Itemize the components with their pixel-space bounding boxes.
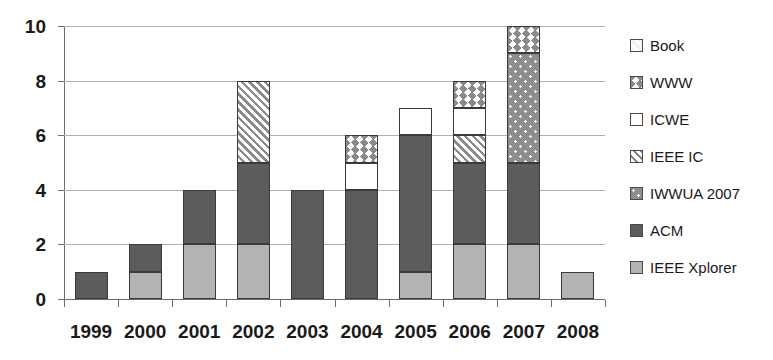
x-tick-mark-4 xyxy=(280,300,281,307)
bar-segment-2007-ieee-xplorer[interactable] xyxy=(507,244,540,299)
legend-label: ICWE xyxy=(650,112,689,127)
bar-group-2002[interactable] xyxy=(237,26,270,299)
bar-segment-1999-acm[interactable] xyxy=(75,272,108,299)
bar-group-2005[interactable] xyxy=(399,26,432,299)
bar-segment-2007-acm[interactable] xyxy=(507,163,540,245)
x-tick-label-2003: 2003 xyxy=(280,322,334,341)
bar-segment-2000-ieee-xplorer[interactable] xyxy=(129,272,162,299)
stacked-bar-chart: 0246810 19992000200120022003200420052006… xyxy=(0,0,773,360)
legend: BookWWWICWEIEEE ICIWWUA 2007ACMIEEE Xplo… xyxy=(630,27,773,286)
x-tick-mark-0 xyxy=(64,300,65,307)
bar-segment-2006-icwe[interactable] xyxy=(453,108,486,135)
bar-group-2003[interactable] xyxy=(291,26,324,299)
x-tick-label-2005: 2005 xyxy=(389,322,443,341)
ieee-xplorer-swatch-icon xyxy=(630,261,643,274)
plot-area xyxy=(64,26,605,299)
bar-segment-2002-acm[interactable] xyxy=(237,163,270,245)
bar-segment-2006-ieee-xplorer[interactable] xyxy=(453,244,486,299)
bar-segment-2000-acm[interactable] xyxy=(129,244,162,271)
bar-segment-2002-ieee-xplorer[interactable] xyxy=(237,244,270,299)
bar-segment-2005-icwe[interactable] xyxy=(399,108,432,135)
x-tick-label-2008: 2008 xyxy=(551,322,605,341)
x-tick-mark-7 xyxy=(443,300,444,307)
legend-label: ACM xyxy=(650,223,683,238)
legend-label: WWW xyxy=(650,75,692,90)
legend-label: Book xyxy=(650,38,684,53)
bar-segment-2004-www[interactable] xyxy=(345,135,378,162)
y-tick-label-8: 8 xyxy=(0,72,46,91)
acm-swatch-icon xyxy=(630,224,643,237)
x-tick-label-1999: 1999 xyxy=(64,322,118,341)
bar-group-2007[interactable] xyxy=(507,26,540,299)
bar-segment-2007-www[interactable] xyxy=(507,26,540,53)
x-tick-mark-3 xyxy=(226,300,227,307)
icwe-swatch-icon xyxy=(630,113,643,126)
legend-item-ieee-xplorer[interactable]: IEEE Xplorer xyxy=(630,249,773,286)
book-swatch-icon xyxy=(630,39,643,52)
bar-group-2000[interactable] xyxy=(129,26,162,299)
bar-segment-2008-ieee-xplorer[interactable] xyxy=(561,272,594,299)
x-tick-mark-9 xyxy=(551,300,552,307)
bar-group-2008[interactable] xyxy=(561,26,594,299)
bar-segment-2006-www[interactable] xyxy=(453,81,486,108)
bar-segment-2007-iwwua-2007[interactable] xyxy=(507,53,540,162)
bar-segment-2003-acm[interactable] xyxy=(291,190,324,299)
x-tick-mark-5 xyxy=(335,300,336,307)
x-tick-label-2006: 2006 xyxy=(443,322,497,341)
ieee-ic-swatch-icon xyxy=(630,150,643,163)
legend-item-ieee-ic[interactable]: IEEE IC xyxy=(630,138,773,175)
bar-segment-2005-acm[interactable] xyxy=(399,135,432,272)
bar-group-2001[interactable] xyxy=(183,26,216,299)
www-swatch-icon xyxy=(630,76,643,89)
y-tick-label-6: 6 xyxy=(0,126,46,145)
bar-segment-2001-ieee-xplorer[interactable] xyxy=(183,244,216,299)
legend-item-icwe[interactable]: ICWE xyxy=(630,101,773,138)
bar-segment-2006-acm[interactable] xyxy=(453,163,486,245)
x-tick-mark-8 xyxy=(497,300,498,307)
x-tick-mark-end xyxy=(605,300,606,307)
x-tick-label-2000: 2000 xyxy=(118,322,172,341)
legend-item-www[interactable]: WWW xyxy=(630,64,773,101)
bar-segment-2004-acm[interactable] xyxy=(345,190,378,299)
bar-group-1999[interactable] xyxy=(75,26,108,299)
y-tick-label-0: 0 xyxy=(0,290,46,309)
x-tick-label-2002: 2002 xyxy=(226,322,280,341)
bar-segment-2001-acm[interactable] xyxy=(183,190,216,245)
x-tick-label-2004: 2004 xyxy=(335,322,389,341)
legend-label: IWWUA 2007 xyxy=(650,186,740,201)
iwwua-swatch-icon xyxy=(630,187,643,200)
legend-label: IEEE Xplorer xyxy=(650,260,737,275)
x-tick-label-2001: 2001 xyxy=(172,322,226,341)
legend-item-book[interactable]: Book xyxy=(630,27,773,64)
bar-segment-2002-ieee-ic[interactable] xyxy=(237,81,270,163)
bar-segment-2004-icwe[interactable] xyxy=(345,163,378,190)
bar-group-2006[interactable] xyxy=(453,26,486,299)
x-tick-mark-6 xyxy=(389,300,390,307)
x-tick-mark-2 xyxy=(172,300,173,307)
bar-segment-2006-ieee-ic[interactable] xyxy=(453,135,486,162)
bar-segment-2005-ieee-xplorer[interactable] xyxy=(399,272,432,299)
x-tick-mark-1 xyxy=(118,300,119,307)
y-tick-label-2: 2 xyxy=(0,235,46,254)
bar-group-2004[interactable] xyxy=(345,26,378,299)
x-tick-label-2007: 2007 xyxy=(497,322,551,341)
legend-label: IEEE IC xyxy=(650,149,703,164)
legend-item-acm[interactable]: ACM xyxy=(630,212,773,249)
y-tick-label-10: 10 xyxy=(0,17,46,36)
y-tick-label-4: 4 xyxy=(0,181,46,200)
legend-item-iwwua-2007[interactable]: IWWUA 2007 xyxy=(630,175,773,212)
